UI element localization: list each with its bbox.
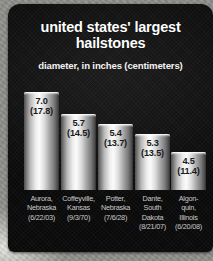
chart-subtitle: diameter, in inches (centimeters): [8, 60, 213, 71]
chart-heading: united states' largest hailstones diamet…: [8, 20, 213, 71]
chart-title: united states' largest hailstones: [8, 20, 213, 51]
bar-value-inches-4: 5.3: [135, 138, 170, 148]
category-label-algonquin-illinois: Algon- quin, Illinois (6/20/08): [168, 194, 210, 232]
bar-slot-2: 5.7 (14.5): [61, 114, 96, 190]
category-state-2: Kansas: [58, 203, 100, 212]
bar-slot-3: 5.4 (13.7): [98, 124, 133, 190]
bar-value-cm-5: (11.4): [171, 166, 206, 176]
bar-value-cm-2: (14.5): [61, 128, 96, 138]
category-city-5: Algon-: [168, 194, 210, 203]
chart-title-line-2: hailstones: [76, 35, 146, 51]
category-label-potter-nebraska: Potter, Nebraska (7/6/28): [95, 194, 137, 222]
bar-chart-plot-area: 7.0 (17.8) 5.7 (14.5) 5.4 (13.7): [19, 82, 203, 190]
bar-value-5: 4.5 (11.4): [171, 156, 206, 176]
bar-aurora-nebraska[interactable]: 7.0 (17.8): [24, 92, 59, 190]
category-state-5b: Illinois: [168, 213, 210, 222]
bar-slot-5: 4.5 (11.4): [171, 152, 206, 190]
bar-value-inches-5: 4.5: [171, 156, 206, 166]
bar-value-2: 5.7 (14.5): [61, 118, 96, 138]
chart-panel: united states' largest hailstones diamet…: [8, 4, 213, 252]
bar-potter-nebraska[interactable]: 5.4 (13.7): [98, 124, 133, 190]
chart-title-line-1: united states' largest: [40, 19, 180, 35]
category-state-3: Nebraska: [95, 203, 137, 212]
bar-value-inches-1: 7.0: [24, 96, 59, 106]
bar-value-cm-3: (13.7): [98, 138, 133, 148]
category-state-5: quin,: [168, 203, 210, 212]
bar-slot-1: 7.0 (17.8): [24, 92, 59, 190]
bar-dante-south-dakota[interactable]: 5.3 (13.5): [135, 134, 170, 190]
bar-value-cm-4: (13.5): [135, 148, 170, 158]
bar-value-1: 7.0 (17.8): [24, 96, 59, 116]
bar-value-cm-1: (17.8): [24, 106, 59, 116]
category-label-coffeyville-kansas: Coffeyville, Kansas (9/3/70): [58, 194, 100, 222]
bar-value-3: 5.4 (13.7): [98, 128, 133, 148]
bar-value-inches-3: 5.4: [98, 128, 133, 138]
category-label-aurora-nebraska: Aurora, Nebraska (6/22/03): [21, 194, 63, 222]
bar-value-4: 5.3 (13.5): [135, 138, 170, 158]
bar-slot-4: 5.3 (13.5): [135, 134, 170, 190]
category-city-2: Coffeyville,: [58, 194, 100, 203]
category-city-3: Potter,: [95, 194, 137, 203]
bar-value-inches-2: 5.7: [61, 118, 96, 128]
category-date-1: (6/22/03): [21, 213, 63, 222]
category-date-2: (9/3/70): [58, 213, 100, 222]
bar-coffeyville-kansas[interactable]: 5.7 (14.5): [61, 114, 96, 190]
category-date-3: (7/6/28): [95, 213, 137, 222]
category-date-5: (6/20/08): [168, 222, 210, 231]
category-city-1: Aurora,: [21, 194, 63, 203]
category-state-1: Nebraska: [21, 203, 63, 212]
bar-algonquin-illinois[interactable]: 4.5 (11.4): [171, 152, 206, 190]
